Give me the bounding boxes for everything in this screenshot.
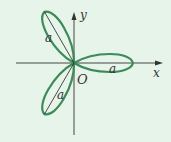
petal-length-label-right: a: [109, 62, 116, 76]
rose-curve-diagram: a a a O x y: [0, 0, 171, 142]
x-axis-arrow-icon: [155, 61, 163, 66]
petal-length-label-lower: a: [57, 88, 64, 102]
y-axis-arrow-icon: [72, 12, 77, 20]
y-axis-label: y: [79, 8, 87, 22]
diagram-svg: a a a O x y: [0, 0, 171, 142]
x-axis-label: x: [153, 66, 160, 80]
origin-label: O: [77, 72, 88, 87]
petal-length-label-upper: a: [45, 31, 52, 45]
